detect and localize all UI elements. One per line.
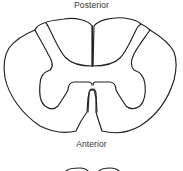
outer-boundary-left — [4, 18, 94, 132]
posterior-column-left — [46, 23, 92, 66]
gray-matter-left — [35, 30, 92, 109]
partial-figure-top-right — [99, 168, 119, 171]
gray-matter-right — [93, 30, 150, 109]
spinal-cord-diagram — [0, 0, 183, 171]
partial-figure-top-left — [66, 168, 88, 171]
posterior-column-right — [93, 24, 141, 66]
